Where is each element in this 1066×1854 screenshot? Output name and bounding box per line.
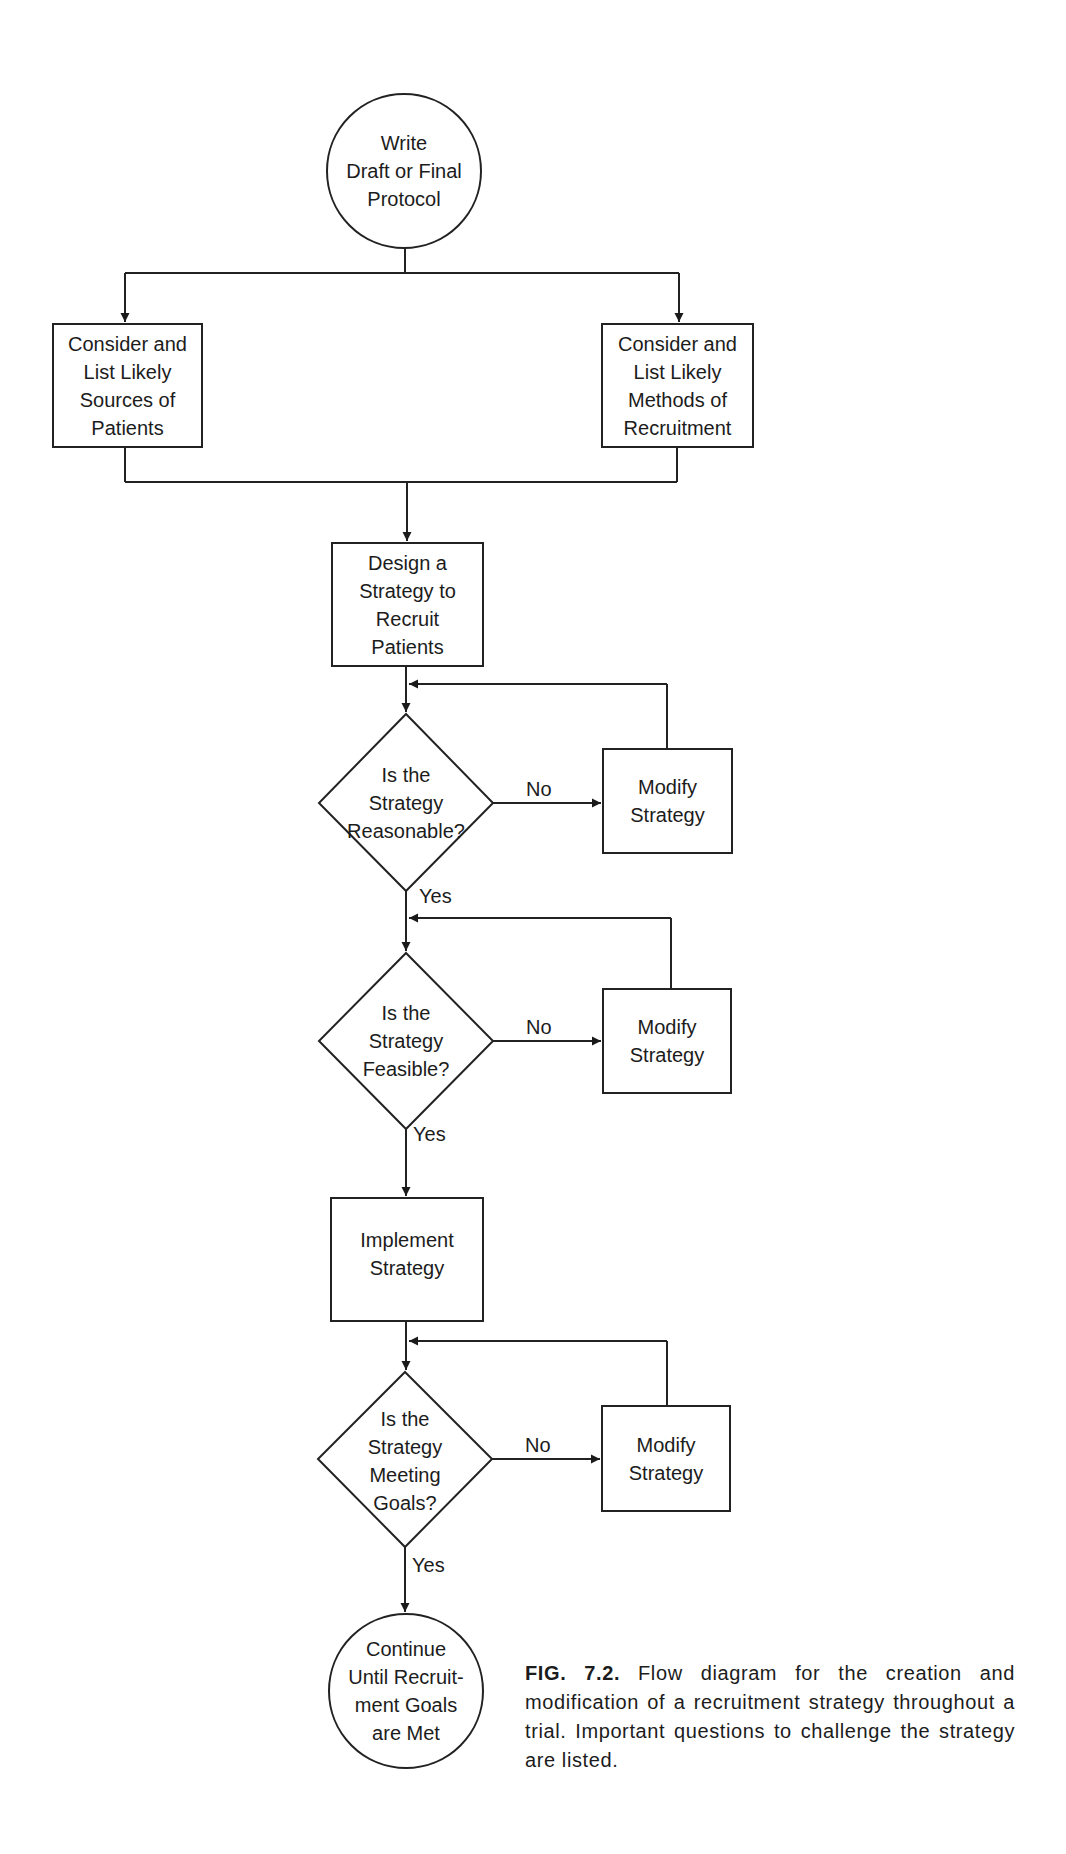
merge-connector	[125, 447, 677, 541]
goals-label: Is the Strategy Meeting Goals?	[318, 1403, 492, 1519]
sources-line-1: Consider and	[68, 330, 187, 358]
sources-line-3: Sources of	[80, 386, 176, 414]
methods-line-1: Consider and	[618, 330, 737, 358]
methods-line-4: Recruitment	[624, 414, 732, 442]
figure-number: FIG. 7.2.	[525, 1662, 620, 1684]
reasonable-line-3: Reasonable?	[347, 817, 465, 845]
feedback-loop-3	[409, 1341, 667, 1406]
reasonable-line-2: Strategy	[369, 789, 443, 817]
feedback-loop-2	[409, 918, 671, 989]
implement-label: Implement Strategy	[331, 1198, 483, 1310]
reasonable-line-1: Is the	[382, 761, 431, 789]
modify-3-label: Modify Strategy	[602, 1406, 730, 1511]
modify-2-label: Modify Strategy	[603, 989, 731, 1093]
no-label-1: No	[526, 778, 552, 800]
sources-line-2: List Likely	[84, 358, 172, 386]
design-line-3: Recruit	[376, 605, 439, 633]
flowchart-canvas	[0, 0, 1066, 1854]
goals-line-3: Meeting	[369, 1461, 440, 1489]
feasible-line-2: Strategy	[369, 1027, 443, 1055]
end-line-2: Until Recruit-	[348, 1663, 464, 1691]
end-line-3: ment Goals	[355, 1691, 457, 1719]
yes-label-3: Yes	[412, 1554, 445, 1576]
figure-caption: FIG. 7.2. Flow diagram for the creation …	[525, 1659, 1015, 1775]
start-line-3: Protocol	[367, 185, 440, 213]
end-label: Continue Until Recruit- ment Goals are M…	[329, 1614, 483, 1768]
feasible-line-3: Feasible?	[363, 1055, 450, 1083]
no-label-3: No	[525, 1434, 551, 1456]
feasible-line-1: Is the	[382, 999, 431, 1027]
sources-label: Consider and List Likely Sources of Pati…	[53, 324, 202, 447]
goals-line-4: Goals?	[373, 1489, 436, 1517]
reasonable-label: Is the Strategy Reasonable?	[319, 758, 493, 848]
modify-2-line-1: Modify	[638, 1013, 697, 1041]
modify-3-line-2: Strategy	[629, 1459, 703, 1487]
feedback-loop-1	[409, 684, 667, 749]
methods-line-2: List Likely	[634, 358, 722, 386]
start-label: Write Draft or Final Protocol	[327, 94, 481, 248]
sources-line-4: Patients	[91, 414, 163, 442]
end-line-4: are Met	[372, 1719, 440, 1747]
design-line-1: Design a	[368, 549, 447, 577]
modify-1-label: Modify Strategy	[603, 749, 732, 853]
modify-1-line-2: Strategy	[630, 801, 704, 829]
goals-line-2: Strategy	[368, 1433, 442, 1461]
no-label-2: No	[526, 1016, 552, 1038]
modify-3-line-1: Modify	[637, 1431, 696, 1459]
design-line-2: Strategy to	[359, 577, 456, 605]
yes-label-1: Yes	[419, 885, 452, 907]
design-label: Design a Strategy to Recruit Patients	[332, 543, 483, 666]
feasible-label: Is the Strategy Feasible?	[319, 996, 493, 1086]
start-line-1: Write	[381, 129, 427, 157]
methods-line-3: Methods of	[628, 386, 727, 414]
modify-2-line-2: Strategy	[630, 1041, 704, 1069]
implement-line-1: Implement	[360, 1226, 453, 1254]
implement-line-2: Strategy	[370, 1254, 444, 1282]
end-line-1: Continue	[366, 1635, 446, 1663]
split-connector	[125, 248, 679, 322]
yes-label-2: Yes	[413, 1123, 446, 1145]
methods-label: Consider and List Likely Methods of Recr…	[602, 324, 753, 447]
modify-1-line-1: Modify	[638, 773, 697, 801]
start-line-2: Draft or Final	[346, 157, 462, 185]
goals-line-1: Is the	[381, 1405, 430, 1433]
design-line-4: Patients	[371, 633, 443, 661]
